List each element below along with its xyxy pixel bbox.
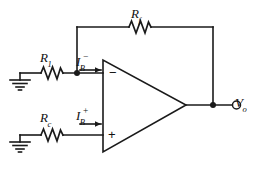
compensation-resistor-label: Rc xyxy=(40,111,52,127)
junction-dot-output-node xyxy=(210,102,216,108)
noninverting-bias-current-label: IB+ xyxy=(76,108,91,126)
feedback-resistor-label: Rf xyxy=(131,7,141,23)
compensation-resistor-symbol xyxy=(41,129,63,141)
ground-symbol-inverting xyxy=(10,80,30,90)
ground-symbol-noninverting xyxy=(10,142,30,152)
opamp-noninverting-terminal-label: + xyxy=(108,128,116,141)
input-resistor-label: R1 xyxy=(40,51,52,67)
inverting-bias-current-label: IB− xyxy=(76,54,91,72)
opamp-inverting-terminal-label: − xyxy=(109,66,117,79)
input-resistor-symbol xyxy=(41,67,63,79)
circuit-diagram-figure: Rf R1 Rc IB− IB+ Vo − + xyxy=(0,0,261,170)
output-voltage-label: Vo xyxy=(235,96,247,112)
circuit-schematic-canvas xyxy=(0,0,261,170)
